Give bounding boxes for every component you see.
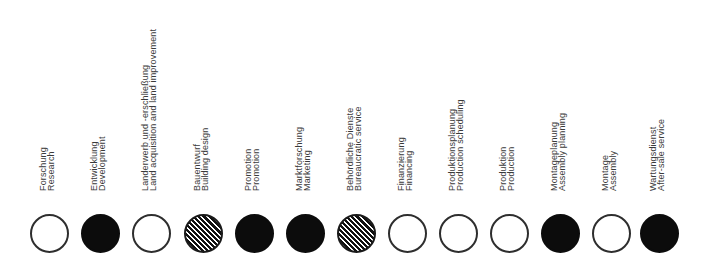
filled-circle-icon [541, 214, 580, 253]
label-english: Building design [201, 128, 209, 191]
activity-column: Landerwerb und -erschließungLand acquisi… [132, 0, 183, 270]
open-circle-icon [592, 214, 631, 253]
activity-label: Behördliche DiensteBureaucratic service [346, 106, 362, 191]
open-circle-icon [490, 214, 529, 253]
open-circle-icon [30, 214, 69, 253]
activity-column: ProduktionProduction [490, 0, 541, 270]
label-english: Assembly [609, 151, 617, 191]
activity-column: BauentwurfBuilding design [184, 0, 235, 270]
activity-column: FinanzierungFinancing [388, 0, 439, 270]
filled-circle-icon [640, 214, 679, 253]
activity-label: PromotionPromotion [244, 149, 260, 191]
activity-column: ProduktionsplanungProduction scheduling [439, 0, 490, 270]
hatched-circle-icon [337, 214, 376, 253]
label-english: Assembly planning [558, 113, 566, 191]
filled-circle-icon [235, 214, 274, 253]
activity-label: ProduktionsplanungProduction scheduling [448, 99, 464, 191]
open-circle-icon [388, 214, 427, 253]
filled-circle-icon [81, 214, 120, 253]
activity-column: ForschungResearch [30, 0, 81, 270]
activity-label: MontageplanungAssembly planning [550, 113, 566, 191]
label-english: Bureaucratic service [354, 106, 362, 191]
activity-label: Landerwerb und -erschließungLand acquisi… [141, 29, 157, 191]
label-english: Promotion [252, 149, 260, 191]
activity-label: FinanzierungFinancing [397, 137, 413, 191]
label-english: Production [507, 146, 515, 191]
activity-column: Behördliche DiensteBureaucratic service [337, 0, 388, 270]
label-english: After-sale service [657, 119, 665, 191]
hatched-circle-icon [184, 214, 223, 253]
label-english: Financing [405, 137, 413, 191]
activity-label: EntwicklungDevelopment [90, 136, 106, 191]
activity-matrix-diagram: ForschungResearchEntwicklungDevelopmentL… [0, 0, 708, 270]
activity-label: BauentwurfBuilding design [193, 128, 209, 191]
activity-column: MontageplanungAssembly planning [541, 0, 592, 270]
filled-circle-icon [286, 214, 325, 253]
activity-label: MontageAssembly [601, 151, 617, 191]
activity-column: PromotionPromotion [235, 0, 286, 270]
activity-label: ProduktionProduction [499, 146, 515, 191]
label-english: Development [98, 136, 106, 191]
label-english: Production scheduling [456, 99, 464, 191]
label-english: Research [47, 147, 55, 191]
label-english: Land acquisition and land improvement [149, 29, 157, 191]
activity-column: MontageAssembly [592, 0, 643, 270]
open-circle-icon [132, 214, 171, 253]
activity-label: ForschungResearch [39, 147, 55, 191]
activity-column: WartungsdienstAfter-sale service [640, 0, 691, 270]
activity-column: MarktforschungMarketing [286, 0, 337, 270]
open-circle-icon [439, 214, 478, 253]
activity-label: WartungsdienstAfter-sale service [649, 119, 665, 191]
label-english: Marketing [303, 127, 311, 191]
activity-column: EntwicklungDevelopment [81, 0, 132, 270]
activity-label: MarktforschungMarketing [295, 127, 311, 191]
